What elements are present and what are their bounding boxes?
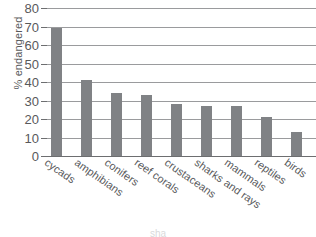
y-tick-label-0: 0 bbox=[32, 150, 39, 163]
bar-chart-figure: % endangered 01020304050607080 cycadsamp… bbox=[0, 0, 316, 237]
margin-note-line-2: st bbox=[0, 216, 16, 229]
bar-cycads bbox=[51, 28, 62, 156]
bar-amphibians bbox=[81, 80, 92, 156]
y-tick-label-60: 60 bbox=[25, 39, 39, 52]
y-tick-label-50: 50 bbox=[25, 57, 39, 70]
y-tick-label-80: 80 bbox=[25, 2, 39, 15]
bar-crustaceans bbox=[171, 104, 182, 156]
cropped-margin-note: n st bbox=[0, 203, 16, 229]
x-axis-category-labels: cycadsamphibiansconifersreef coralscrust… bbox=[47, 157, 316, 237]
bar-mammals bbox=[231, 106, 242, 156]
y-tick-label-20: 20 bbox=[25, 113, 39, 126]
bar-birds bbox=[291, 132, 302, 156]
margin-note-line-1: n bbox=[0, 203, 16, 216]
bar-reef-corals bbox=[141, 95, 152, 156]
bar-reptiles bbox=[261, 117, 272, 156]
x-label-cycads: cycads bbox=[43, 157, 77, 186]
bars-layer bbox=[47, 8, 316, 156]
y-tick-label-40: 40 bbox=[25, 76, 39, 89]
y-tick-label-70: 70 bbox=[25, 20, 39, 33]
y-tick-label-10: 10 bbox=[25, 131, 39, 144]
bar-conifers bbox=[111, 93, 122, 156]
bar-sharks-and-rays bbox=[201, 106, 212, 156]
y-tick-label-30: 30 bbox=[25, 94, 39, 107]
plot-area: 01020304050607080 bbox=[47, 8, 316, 156]
cropped-bottom-note: sha bbox=[150, 228, 166, 237]
